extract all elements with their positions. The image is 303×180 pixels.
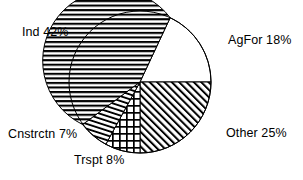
pie-chart-figure: Ind 42% AgFor 18% Other 25% Cnstrctn 7% … bbox=[0, 0, 303, 180]
pie-slice-other[interactable] bbox=[140, 82, 211, 153]
pie-label-cnstrctn: Cnstrctn 7% bbox=[8, 127, 77, 141]
pie-label-agfor: AgFor 18% bbox=[228, 33, 291, 47]
pie-label-ind: Ind 42% bbox=[22, 25, 69, 39]
pie-label-other: Other 25% bbox=[226, 126, 287, 140]
pie-label-trspt: Trspt 8% bbox=[74, 153, 124, 167]
